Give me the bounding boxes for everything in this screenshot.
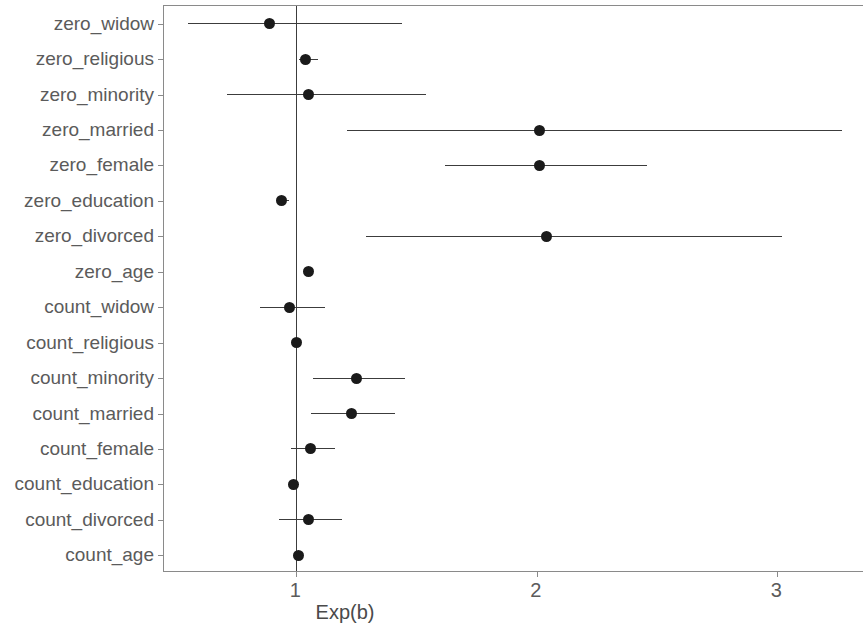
plot-panel: [163, 5, 863, 572]
x-axis-tick-label: 2: [530, 580, 541, 600]
y-axis-label-zero-married: zero_married: [42, 120, 154, 139]
x-axis-tick: [537, 571, 538, 577]
y-axis-label-zero-female: zero_female: [49, 155, 154, 174]
y-axis-tick: [158, 272, 164, 273]
y-axis-tick: [158, 414, 164, 415]
estimate-point: [288, 479, 299, 490]
y-axis-tick: [158, 95, 164, 96]
y-axis-tick: [158, 236, 164, 237]
y-axis-tick: [158, 378, 164, 379]
y-axis-label-count-minority: count_minority: [30, 368, 154, 387]
y-axis-label-zero-age: zero_age: [75, 261, 154, 280]
estimate-point: [293, 550, 304, 561]
y-axis-tick: [158, 449, 164, 450]
y-axis-label-count-widow: count_widow: [44, 297, 154, 316]
y-axis-tick: [158, 307, 164, 308]
estimate-point: [346, 408, 357, 419]
confidence-interval-line: [445, 165, 647, 166]
y-axis-label-count-religious: count_religious: [26, 332, 154, 351]
estimate-point: [303, 89, 314, 100]
y-axis-label-zero-widow: zero_widow: [54, 13, 154, 32]
estimate-point: [276, 195, 287, 206]
y-axis-tick: [158, 343, 164, 344]
confidence-interval-line: [227, 94, 427, 95]
x-axis-title-text: Exp(b): [316, 601, 375, 623]
y-axis-label-zero-education: zero_education: [24, 190, 154, 209]
y-axis-label-count-education: count_education: [15, 474, 154, 493]
y-axis-tick: [158, 130, 164, 131]
confidence-interval-line: [366, 236, 782, 237]
y-axis-label-zero-divorced: zero_divorced: [35, 226, 154, 245]
estimate-point: [305, 443, 316, 454]
x-axis-tick-label: 1: [290, 580, 301, 600]
estimate-point: [541, 231, 552, 242]
estimate-point: [291, 337, 302, 348]
y-axis-tick: [158, 555, 164, 556]
y-axis-tick: [158, 24, 164, 25]
estimate-point: [534, 160, 545, 171]
x-axis-tick: [296, 571, 297, 577]
x-axis-tick-label: 3: [771, 580, 782, 600]
estimate-point: [351, 373, 362, 384]
estimate-point: [303, 266, 314, 277]
x-axis-tick: [777, 571, 778, 577]
y-axis-label-count-married: count_married: [33, 403, 154, 422]
y-axis-tick: [158, 484, 164, 485]
forest-plot-figure: zero_widowzero_religiouszero_minorityzer…: [0, 0, 866, 628]
estimate-point: [534, 125, 545, 136]
y-axis-label-zero-minority: zero_minority: [40, 84, 154, 103]
y-axis-label-count-age: count_age: [65, 545, 154, 564]
y-axis-tick: [158, 165, 164, 166]
y-axis-label-count-female: count_female: [40, 438, 154, 457]
confidence-interval-line: [347, 130, 843, 131]
y-axis-tick: [158, 201, 164, 202]
y-axis-tick: [158, 59, 164, 60]
y-axis-tick: [158, 520, 164, 521]
estimate-point: [264, 18, 275, 29]
y-axis-label-zero-religious: zero_religious: [36, 49, 154, 68]
confidence-interval-line: [188, 23, 402, 24]
estimate-point: [300, 54, 311, 65]
estimate-point: [303, 514, 314, 525]
y-axis-label-count-divorced: count_divorced: [25, 509, 154, 528]
estimate-point: [284, 302, 295, 313]
x-axis-title: Exp(b): [0, 602, 866, 622]
